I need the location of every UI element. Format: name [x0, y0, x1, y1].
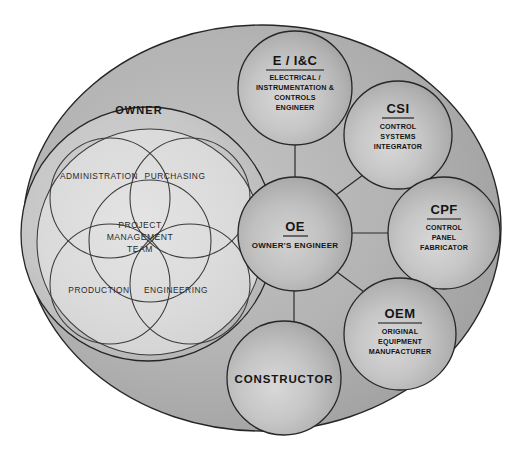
owner-label: OWNER [115, 104, 163, 116]
pmt-label-line3: TEAM [127, 244, 153, 254]
satellite-csi[interactable]: CSI CONTROL SYSTEMS INTEGRATOR [344, 81, 452, 189]
owner-group[interactable]: OWNER ADMINISTRATION PURCHASING PRODUCTI… [21, 104, 275, 361]
oem-expansion-line-2: EQUIPMENT [378, 337, 423, 346]
cpf-expansion-line-2: PANEL [432, 233, 457, 242]
oem-expansion-line-1: ORIGINAL [382, 327, 419, 336]
venn-label-administration: ADMINISTRATION [60, 171, 138, 181]
project-team-relationship-diagram: OWNER ADMINISTRATION PURCHASING PRODUCTI… [0, 0, 528, 451]
pmt-label-line2: MANAGEMENT [107, 232, 174, 242]
eic-expansion-line-2: INSTRUMENTATION & [256, 83, 334, 92]
csi-expansion-line-3: INTEGRATOR [374, 142, 423, 151]
cpf-expansion-line-1: CONTROL [426, 223, 463, 232]
cpf-expansion-line-3: FABRICATOR [420, 243, 469, 252]
oe-acronym: OE [285, 219, 305, 234]
oe-expansion-line-1: OWNER'S ENGINEER [252, 241, 339, 250]
oem-expansion-line-3: MANUFACTURER [369, 347, 432, 356]
eic-expansion-line-1: ELECTRICAL / [269, 73, 320, 82]
csi-expansion-line-2: SYSTEMS [380, 132, 415, 141]
hub-oe[interactable]: OE OWNER'S ENGINEER [238, 177, 352, 291]
satellite-oem[interactable]: OEM ORIGINAL EQUIPMENT MANUFACTURER [344, 278, 456, 390]
pmt-label-line1: PROJECT [118, 220, 162, 230]
satellite-constructor[interactable]: CONSTRUCTOR [227, 321, 341, 435]
diagram-root: OWNER ADMINISTRATION PURCHASING PRODUCTI… [0, 0, 528, 451]
oem-acronym: OEM [385, 306, 416, 321]
constructor-acronym: CONSTRUCTOR [234, 373, 333, 385]
csi-acronym: CSI [387, 101, 410, 116]
eic-acronym: E / I&C [273, 53, 318, 68]
venn-label-production: PRODUCTION [68, 285, 129, 295]
satellite-cpf[interactable]: CPF CONTROL PANEL FABRICATOR [388, 177, 500, 289]
cpf-acronym: CPF [430, 202, 457, 217]
eic-expansion-line-3: CONTROLS [274, 93, 316, 102]
venn-label-engineering: ENGINEERING [144, 285, 208, 295]
csi-expansion-line-1: CONTROL [380, 122, 417, 131]
eic-expansion-line-4: ENGINEER [276, 103, 315, 112]
satellite-eic[interactable]: E / I&C ELECTRICAL / INSTRUMENTATION & C… [238, 31, 352, 145]
venn-label-purchasing: PURCHASING [145, 171, 206, 181]
